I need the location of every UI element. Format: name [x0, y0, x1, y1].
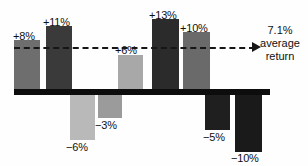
bar-value-label: +8%	[13, 30, 35, 42]
zero-baseline-axis	[14, 89, 270, 95]
bar	[183, 32, 210, 91]
bar-value-label: −3%	[95, 119, 117, 131]
average-return-reference-line	[14, 47, 255, 49]
bar	[70, 95, 95, 140]
bar-chart: +8%+11%−6%−3%+6%+13%+10%−5%−10% 7.1% ave…	[0, 0, 308, 166]
bar-value-label: −6%	[66, 141, 88, 153]
average-return-label-line1: average	[254, 37, 306, 50]
average-return-value: 7.1%	[254, 24, 306, 37]
bar	[118, 55, 143, 91]
bar-value-label: −10%	[231, 152, 259, 164]
bar	[46, 26, 72, 91]
bar	[205, 95, 230, 130]
bar	[98, 95, 122, 118]
average-return-label-line2: return	[254, 50, 306, 63]
bar-value-label: +13%	[149, 9, 177, 21]
bar-value-label: +10%	[180, 22, 208, 34]
bar	[152, 19, 179, 91]
bar-value-label: −5%	[203, 131, 225, 143]
average-return-annotation: 7.1% average return	[254, 24, 306, 63]
bar	[235, 95, 262, 152]
bar-value-label: +6%	[115, 44, 137, 56]
bar-value-label: +11%	[43, 16, 70, 28]
